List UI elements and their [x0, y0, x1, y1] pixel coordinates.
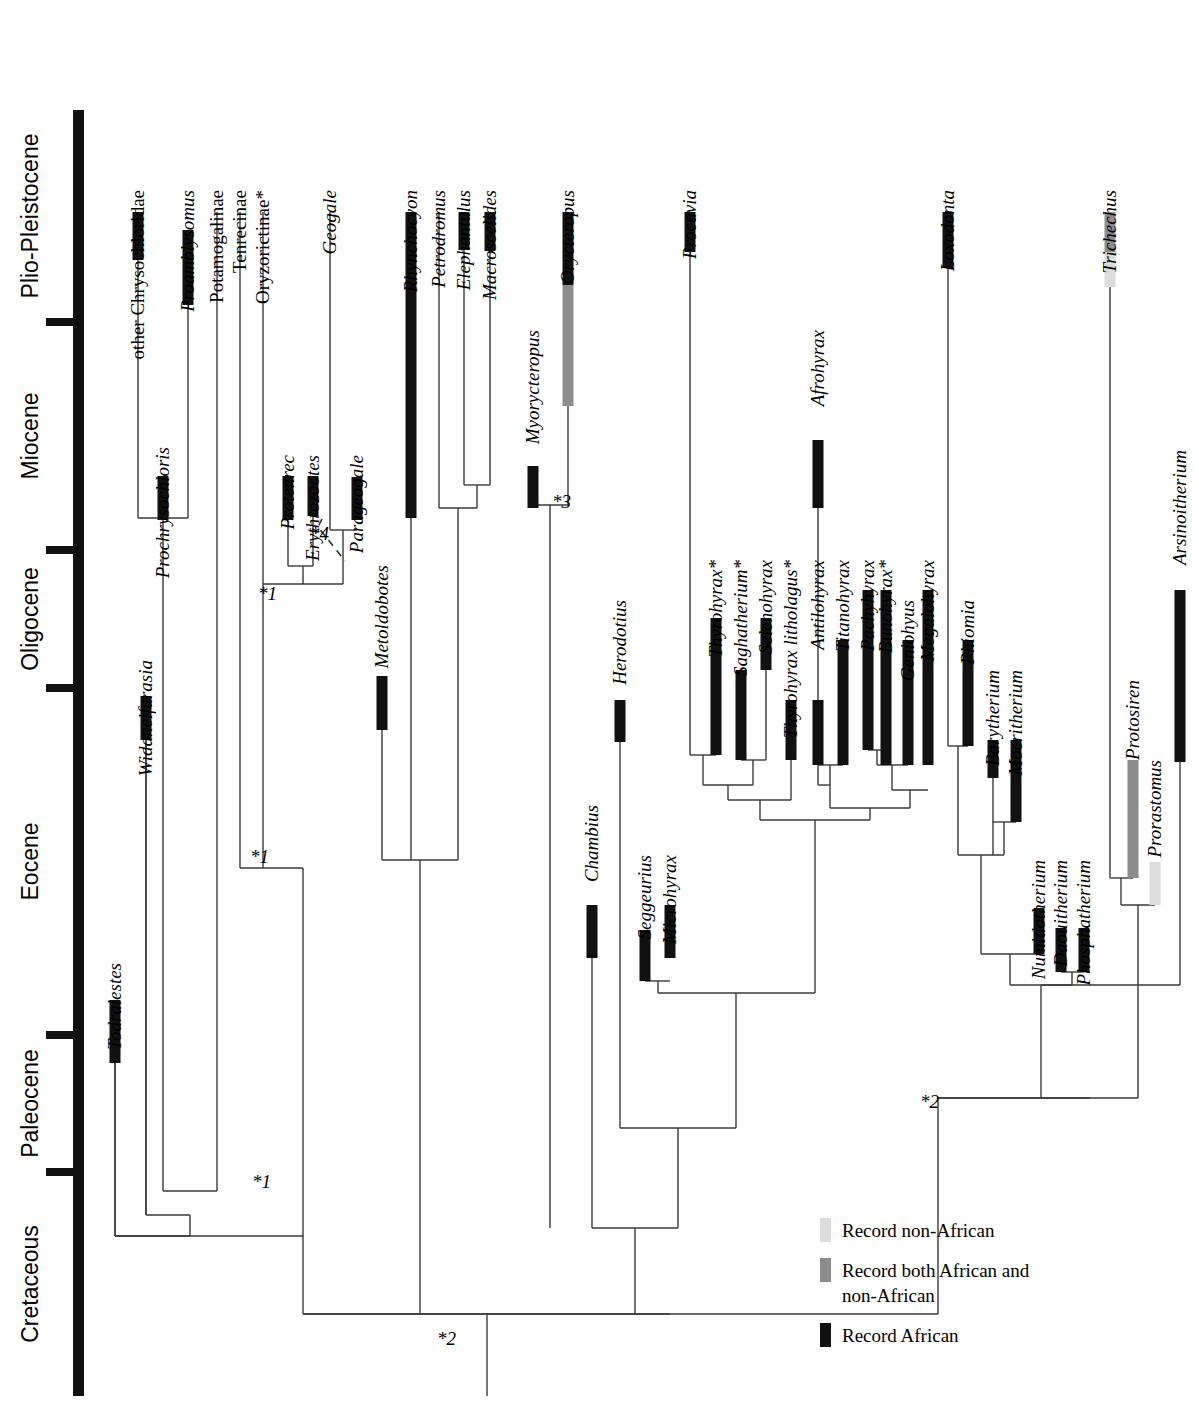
- footnote-marker-star3-4: *3: [552, 491, 571, 512]
- taxon-label-rhynchocyon: Rhynchocyon: [400, 190, 421, 293]
- taxon-label-chambius: Chambius: [581, 805, 602, 882]
- taxon-label-microhyrax: Microhyrax: [659, 854, 680, 945]
- taxon-label-bunohyrax: Bunohyrax*: [875, 560, 896, 653]
- taxon-label-widanelfarasia: Widanelfarasia: [135, 660, 156, 776]
- footnote-marker-star1-3: *1: [252, 1171, 271, 1192]
- footnote-marker-star2-6: *2: [437, 1328, 457, 1349]
- range-bar-arsinoitherium: [1175, 590, 1186, 762]
- taxon-label-protenrec: Protenrec: [277, 454, 298, 530]
- taxon-label-arsinoitherium: Arsinoitherium: [1169, 450, 1190, 567]
- epoch-tick: [46, 684, 78, 692]
- taxon-label-petrodromus: Petrodromus: [428, 190, 449, 289]
- taxon-label-phosphatherium: Phosphatherium: [1073, 860, 1094, 987]
- taxon-label-thyrohyrax: Thyrohyrax*: [705, 560, 726, 658]
- taxon-label-todralestes: Todralestes: [104, 963, 125, 1050]
- range-bar-saghatherium: [736, 670, 747, 760]
- range-bar-antilohyrax: [813, 700, 824, 765]
- range-bar-chambius: [587, 905, 598, 958]
- epoch-label-cretaceous: Cretaceous: [17, 1225, 43, 1343]
- footnote-marker-star4-1: *4: [310, 523, 330, 544]
- legend-label-non-african: Record non-African: [842, 1220, 995, 1241]
- range-bar-prorastomus: [1150, 862, 1161, 905]
- taxon-label-trichechus: Trichechus: [1099, 190, 1120, 273]
- legend-swatch-both: [820, 1258, 831, 1282]
- taxon-label-daouitherium: Daouitherium: [1050, 860, 1071, 968]
- epoch-label-plio-pleistocene: Plio-Pleistocene: [17, 134, 43, 299]
- taxon-label-phiomia: Phiomia: [957, 600, 978, 665]
- taxon-label-potamogalinae: Potamogalinae: [206, 190, 227, 303]
- taxon-label-tenrecinae: Tenrecinae: [229, 190, 250, 273]
- taxon-label-antilohyrax: Antilohyrax: [807, 559, 828, 651]
- taxon-label-saghatherium: Saghatherium*: [730, 560, 751, 677]
- taxon-label-otherchrysochloridae: other Chrysochloridae: [127, 190, 148, 359]
- taxon-label-titanohyrax: Titanohyrax: [832, 559, 853, 651]
- taxon-label-macroscelides: Macroscelides: [479, 190, 500, 301]
- epoch-label-oligocene: Oligocene: [17, 567, 43, 671]
- epoch-tick: [46, 546, 78, 554]
- taxon-label-afrohyrax: Afrohyrax: [807, 329, 828, 408]
- taxon-label-herodotius: Herodotius: [609, 600, 630, 686]
- taxon-label-numidotherium: Numidotherium: [1028, 860, 1049, 980]
- range-bar-myorycteropus: [528, 466, 539, 508]
- legend-swatch-non-african: [820, 1218, 831, 1242]
- range-bar-titanohyrax: [838, 640, 849, 765]
- taxon-label-geogale: Geogale: [319, 190, 340, 254]
- taxon-label-megalohyrax: Megalohyrax: [917, 559, 938, 662]
- epoch-label-paleocene: Paleocene: [17, 1049, 43, 1158]
- taxon-label-protosiren: Protosiren: [1122, 680, 1143, 761]
- taxon-label-metoldobotes: Metoldobotes: [371, 565, 392, 669]
- footnote-marker-star1-2: *1: [250, 846, 269, 867]
- figure-canvas: Plio-PleistoceneMioceneOligoceneEocenePa…: [0, 0, 1199, 1403]
- legend: Record non-AfricanRecord both African an…: [820, 1218, 1030, 1347]
- epoch-tick: [46, 1168, 78, 1176]
- taxon-label-seggeurius: Seggeurius: [634, 855, 655, 939]
- timescale-spine: [73, 110, 84, 1396]
- taxon-label-erythrozootes: Erythrozootes: [302, 455, 323, 562]
- taxon-label-selenohyrax: Selenohyrax: [755, 559, 776, 653]
- footnote-marker-star2-5: *2: [920, 1091, 940, 1112]
- taxon-label-proamblysomus: Proamblysomus: [177, 190, 198, 313]
- taxon-label-geniohyus: Geniohyus: [897, 600, 918, 681]
- range-bar-orycteropus-both: [563, 285, 574, 406]
- legend-swatch-african: [820, 1323, 831, 1347]
- range-bar-metoldobotes: [377, 676, 388, 730]
- legend-label-both-cont: non-African: [842, 1285, 935, 1306]
- taxon-label-oryzorictinae: Oryzorictinae*: [252, 190, 273, 304]
- taxon-label-parageogale: Parageogale: [346, 455, 367, 554]
- epoch-tick: [46, 318, 78, 326]
- taxon-label-myorycteropus: Myorycteropus: [522, 330, 543, 445]
- phylogenetic-tree: Plio-PleistoceneMioceneOligoceneEocenePa…: [0, 0, 1199, 1403]
- legend-label-african: Record African: [842, 1325, 959, 1346]
- taxon-label-barytherium: Barytherium: [982, 670, 1003, 766]
- taxon-label-prochrysochloris: Prochrysochloris: [152, 447, 173, 579]
- range-bar-afrohyrax: [813, 440, 824, 508]
- legend-label-both: Record both African and: [842, 1260, 1030, 1281]
- taxon-label-procavia: Procavia: [679, 190, 700, 260]
- range-bar-protosiren: [1128, 760, 1139, 878]
- range-bar-herodotius: [615, 700, 626, 742]
- epoch-label-miocene: Miocene: [17, 393, 43, 480]
- taxon-label-prorastomus: Prorastomus: [1144, 760, 1165, 858]
- taxon-label-moeritherium: Moeritherium: [1005, 670, 1026, 777]
- taxon-label-thyrohyraxlitholagus: Thyrohyrax litholagus*: [780, 560, 801, 739]
- taxon-labels: Todralestesother ChrysochloridaeProchrys…: [104, 190, 1190, 1050]
- taxon-label-loxodonta: Loxodonta: [937, 190, 958, 272]
- taxon-label-orycteropus: Orycteropus: [557, 190, 578, 284]
- footnote-marker-star1-0: *1: [258, 583, 277, 604]
- timescale-axis: Plio-PleistoceneMioceneOligoceneEocenePa…: [17, 110, 84, 1396]
- epoch-label-eocene: Eocene: [17, 822, 43, 900]
- epoch-tick: [46, 1031, 78, 1039]
- taxon-label-elephantulus: Elephantulus: [453, 190, 474, 291]
